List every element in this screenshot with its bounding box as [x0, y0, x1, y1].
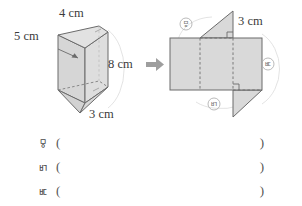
- answer-marker-a: ㅱ: [38, 135, 53, 151]
- net-bottom-triangle: [233, 90, 262, 117]
- answer-paren-close-c: ): [260, 183, 264, 199]
- prism-label-4cm: 4 cm: [59, 6, 84, 20]
- net-part-label-c: ㅳ: [262, 58, 274, 70]
- right-arrow-icon: [146, 58, 164, 71]
- answer-row-a: ㅱ ( ): [38, 131, 264, 155]
- prism-label-3cm: 3 cm: [89, 107, 114, 121]
- net-lateral-rectangle: [170, 38, 262, 90]
- answer-blank-list: ㅱ ( ) ㅲ ( ) ㅳ ( ): [0, 128, 302, 206]
- prism-label-5cm: 5 cm: [14, 29, 39, 43]
- answer-marker-c: ㅳ: [38, 183, 53, 199]
- net-top-triangle: [200, 11, 233, 38]
- prism-label-8cm: 8 cm: [108, 57, 133, 71]
- answer-paren-open-a: (: [56, 135, 60, 151]
- answer-paren-open-b: (: [56, 159, 60, 175]
- answer-paren-close-a: ): [260, 135, 264, 151]
- answer-row-c: ㅳ ( ): [38, 179, 264, 203]
- answer-row-b: ㅲ ( ): [38, 155, 264, 179]
- net-part-label-b-text: ㅲ: [210, 99, 218, 109]
- prism-net-figure: 3 cm ㅱ ㅲ ㅳ: [170, 11, 280, 117]
- answer-marker-b: ㅲ: [38, 159, 53, 175]
- transform-arrow: [146, 58, 164, 71]
- net-part-label-b: ㅲ: [208, 98, 220, 110]
- triangular-prism-figure: 4 cm 5 cm 8 cm 3 cm: [14, 6, 133, 121]
- answer-paren-open-c: (: [56, 183, 60, 199]
- figure-area: 4 cm 5 cm 8 cm 3 cm: [0, 0, 302, 130]
- worksheet-page: 4 cm 5 cm 8 cm 3 cm: [0, 0, 302, 206]
- figures-svg: 4 cm 5 cm 8 cm 3 cm: [0, 0, 302, 130]
- net-label-3cm: 3 cm: [238, 14, 263, 28]
- answer-paren-close-b: ): [260, 159, 264, 175]
- net-part-label-a-text: ㅱ: [182, 19, 190, 29]
- net-part-label-c-text: ㅳ: [264, 59, 272, 69]
